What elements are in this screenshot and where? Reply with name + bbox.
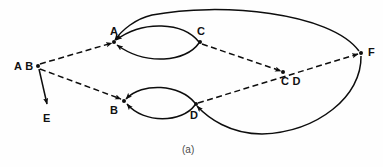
edge-c-to-a-dn — [117, 43, 199, 59]
node-dot-f — [359, 51, 363, 55]
figure-caption: (a) — [182, 145, 194, 155]
node-label-f: F — [368, 47, 375, 58]
node-label-d: D — [190, 110, 198, 121]
node-label-c: C — [197, 26, 205, 37]
node-dot-b — [122, 99, 126, 103]
node-dot-cd — [281, 70, 285, 74]
node-label-a: A — [110, 26, 118, 37]
figure-container: A BACFC DBDE (a) — [0, 0, 383, 167]
edge-f-to-a — [115, 10, 359, 51]
edge-d-to-b-dn — [127, 104, 195, 119]
node-dot-d — [194, 102, 198, 106]
node-dot-a — [112, 40, 116, 44]
node-dot-layer — [36, 40, 363, 106]
node-label-b: B — [110, 105, 118, 116]
diagram-canvas — [0, 0, 383, 167]
edge-ab-to-e — [39, 69, 47, 104]
edge-d-to-f — [198, 54, 358, 103]
edge-c-to-a-up — [116, 26, 199, 42]
edge-d-to-b-up — [126, 87, 195, 103]
node-label-e: E — [43, 113, 51, 124]
edge-ab-to-b — [40, 69, 121, 99]
edge-c-to-cd — [202, 44, 281, 71]
node-dot-ab — [36, 64, 40, 68]
node-label-cd: C D — [281, 76, 301, 87]
node-dot-c — [198, 40, 202, 44]
edge-ab-to-a — [40, 43, 112, 64]
node-label-ab: A B — [14, 61, 33, 72]
